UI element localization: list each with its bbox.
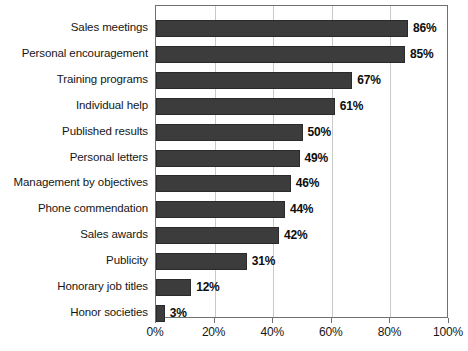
category-label: Personal letters bbox=[70, 151, 148, 164]
bar-value-label: 44% bbox=[290, 203, 313, 216]
category-label: Sales awards bbox=[80, 228, 148, 241]
bar-value-label: 31% bbox=[252, 255, 275, 268]
category-label: Personal encouragement bbox=[22, 47, 148, 60]
x-axis-tick bbox=[155, 318, 156, 323]
bar bbox=[156, 150, 300, 167]
x-axis-tick-label: 100% bbox=[433, 325, 463, 339]
bar-chart: Sales meetingsPersonal encouragementTrai… bbox=[0, 0, 468, 351]
category-label: Training programs bbox=[57, 73, 148, 86]
bar-value-label: 86% bbox=[413, 22, 436, 35]
x-axis-tick bbox=[331, 318, 332, 323]
bar-value-label: 42% bbox=[284, 229, 307, 242]
category-label: Published results bbox=[62, 125, 148, 138]
bar bbox=[156, 72, 352, 89]
x-axis-tick-label: 20% bbox=[202, 325, 225, 339]
bar bbox=[156, 124, 303, 141]
bar-value-label: 85% bbox=[410, 48, 433, 61]
bar bbox=[156, 279, 191, 296]
bar-value-label: 46% bbox=[296, 177, 319, 190]
bar bbox=[156, 305, 165, 322]
bar-value-label: 50% bbox=[308, 126, 331, 139]
x-axis-tick bbox=[448, 318, 449, 323]
plot-area: 86%85%67%61%50%49%46%44%42%31%12%3% bbox=[155, 5, 448, 318]
bar bbox=[156, 253, 247, 270]
category-label: Honorary job titles bbox=[57, 280, 148, 293]
x-axis-tick bbox=[389, 318, 390, 323]
bar bbox=[156, 98, 335, 115]
bar-value-label: 3% bbox=[170, 307, 187, 320]
bar bbox=[156, 20, 408, 37]
category-label: Publicity bbox=[106, 254, 148, 267]
bar bbox=[156, 46, 405, 63]
category-label: Sales meetings bbox=[71, 21, 148, 34]
bar bbox=[156, 201, 285, 218]
bar bbox=[156, 175, 291, 192]
bar-value-label: 61% bbox=[340, 100, 363, 113]
bar-value-label: 49% bbox=[305, 152, 328, 165]
category-label: Management by objectives bbox=[14, 176, 148, 189]
x-axis-tick-label: 0% bbox=[147, 325, 164, 339]
category-label: Phone commendation bbox=[38, 202, 148, 215]
category-label: Honor societies bbox=[70, 306, 148, 319]
x-axis-tick bbox=[214, 318, 215, 323]
category-axis-labels: Sales meetingsPersonal encouragementTrai… bbox=[0, 5, 152, 318]
x-axis-tick-label: 40% bbox=[260, 325, 283, 339]
bar-value-label: 12% bbox=[196, 281, 219, 294]
x-axis-tick-label: 80% bbox=[378, 325, 401, 339]
x-axis-tick-label: 60% bbox=[319, 325, 342, 339]
x-axis-tick bbox=[272, 318, 273, 323]
bar bbox=[156, 227, 279, 244]
bar-value-label: 67% bbox=[357, 74, 380, 87]
category-label: Individual help bbox=[76, 99, 148, 112]
